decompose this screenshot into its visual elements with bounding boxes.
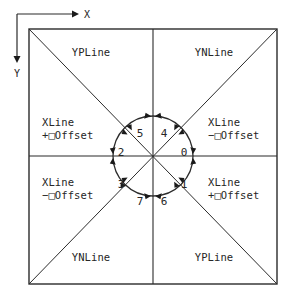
quadrant-label-bottom-left: YNLine [72, 251, 111, 263]
octant-label-2: 2 [118, 146, 125, 159]
octant-label-4: 4 [161, 127, 168, 140]
side-label-right-lower-line2: +□Offset [208, 189, 259, 201]
circle-arrow-left-up [110, 147, 116, 154]
word-right-lower: Offset [221, 189, 260, 201]
axis-indicator: X Y [14, 9, 91, 79]
y-axis-arrowhead [14, 56, 21, 63]
side-label-left-upper: XLine +□Offset [42, 116, 93, 141]
circle-arrow-top-right [155, 113, 162, 119]
side-label-right-lower-line1: XLine [208, 176, 240, 188]
word-left-upper: Offset [55, 129, 94, 141]
quadrant-label-top-right: YNLine [195, 46, 234, 58]
side-label-left-lower: XLine −□Offset [42, 176, 93, 201]
side-label-left-upper-line2: +□Offset [42, 129, 93, 141]
circle-arrow-right-down [190, 158, 196, 165]
side-label-right-upper-line2: −□Offset [208, 129, 259, 141]
side-label-right-upper: XLine −□Offset [208, 116, 259, 141]
side-label-right-upper-line1: XLine [208, 116, 240, 128]
octant-label-0: 0 [181, 146, 188, 159]
side-label-left-lower-line2: −□Offset [42, 189, 93, 201]
quadrant-label-top-left: YPLine [72, 46, 111, 58]
octant-label-3: 3 [118, 178, 125, 191]
octant-label-6: 6 [161, 195, 168, 208]
octant-label-1: 1 [181, 178, 188, 191]
word-left-lower: Offset [55, 189, 94, 201]
y-axis-label: Y [14, 68, 20, 79]
octant-diagram: X Y [0, 0, 295, 304]
side-label-left-upper-line1: XLine [42, 116, 74, 128]
circle-arrow-right-up [190, 147, 196, 154]
circle-arrow-bottom-left [144, 193, 151, 199]
side-label-left-lower-line1: XLine [42, 176, 74, 188]
quadrant-label-bottom-right: YPLine [195, 251, 234, 263]
circle-arrow-top-left [144, 113, 151, 119]
diagram-canvas: X Y [0, 0, 295, 304]
x-axis-label: X [84, 9, 90, 20]
side-label-right-lower: XLine +□Offset [208, 176, 259, 201]
x-axis-arrowhead [72, 11, 79, 18]
octant-label-7: 7 [137, 195, 144, 208]
octant-label-5: 5 [137, 127, 144, 140]
circle-arrow-left-down [110, 158, 116, 165]
word-right-upper: Offset [221, 129, 260, 141]
